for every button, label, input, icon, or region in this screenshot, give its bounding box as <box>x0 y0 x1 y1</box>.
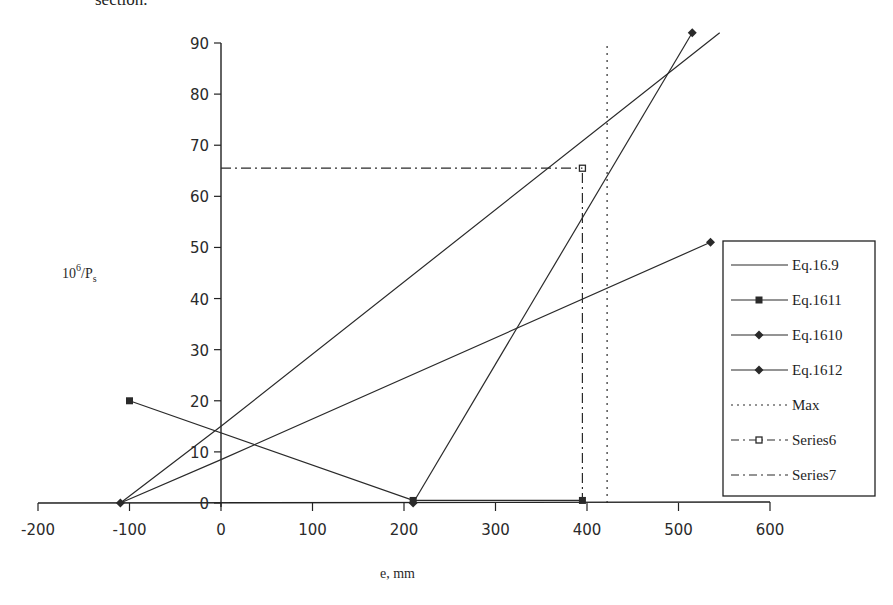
legend-label: Series6 <box>792 432 837 448</box>
legend-label: Eq.16.9 <box>792 257 839 273</box>
x-tick-label: 600 <box>756 521 785 539</box>
x-tick-label: -100 <box>112 521 146 539</box>
x-tick-label: 100 <box>298 521 327 539</box>
legend-label: Eq.1612 <box>792 362 842 378</box>
y-tick-label: 60 <box>190 188 209 206</box>
series-eq-16-9 <box>120 33 719 503</box>
series-series6 <box>579 165 585 503</box>
x-axis-title: e, mm <box>380 566 415 581</box>
y-tick-label: 0 <box>199 495 209 513</box>
x-tick-label: 500 <box>664 521 693 539</box>
legend-label: Series7 <box>792 467 837 483</box>
y-tick-label: 30 <box>190 342 209 360</box>
x-tick-label: 200 <box>390 521 419 539</box>
y-tick-label: 50 <box>190 239 209 257</box>
chart: -200-10001002003004005006000102030405060… <box>0 0 893 605</box>
x-tick-label: 300 <box>481 521 510 539</box>
x-tick-label: -200 <box>21 521 55 539</box>
x-tick-label: 0 <box>216 521 226 539</box>
y-tick-label: 20 <box>190 393 209 411</box>
x-axis-line <box>38 502 770 503</box>
y-tick-label: 80 <box>190 86 209 104</box>
y-tick-label: 10 <box>190 444 209 462</box>
series-eq-1610 <box>116 238 715 508</box>
legend-label: Eq.1611 <box>792 292 842 308</box>
legend-label: Max <box>792 397 820 413</box>
y-axis-title: 106/Ps <box>62 262 97 284</box>
y-tick-label: 40 <box>190 291 209 309</box>
y-tick-label: 90 <box>190 35 209 53</box>
x-tick-label: 400 <box>573 521 602 539</box>
y-tick-label: 70 <box>190 137 209 155</box>
axes: -200-10001002003004005006000102030405060… <box>21 35 784 539</box>
legend: Eq.16.9Eq.1611Eq.1610Eq.1612MaxSeries6Se… <box>723 241 875 496</box>
legend-label: Eq.1610 <box>792 327 842 343</box>
